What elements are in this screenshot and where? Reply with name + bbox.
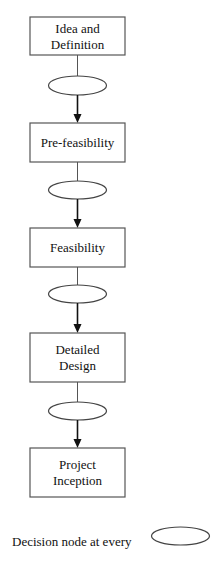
- stage-label: Feasibility: [50, 240, 105, 255]
- legend: Decision node at every: [12, 527, 210, 549]
- arrowhead-icon: [74, 114, 82, 123]
- decision-node-1: [49, 76, 107, 95]
- arrowhead-icon: [74, 324, 82, 333]
- stage-label-line-2: Inception: [53, 473, 103, 488]
- stage-pre-feasibility: Pre-feasibility: [30, 123, 125, 162]
- stage-label-line-1: Idea and: [55, 21, 100, 36]
- stage-label: Pre-feasibility: [41, 135, 115, 150]
- decision-node-2: [49, 181, 107, 199]
- arrowhead-icon: [74, 439, 82, 448]
- stage-label-line-2: Definition: [51, 37, 105, 52]
- stage-detailed-design: Detailed Design: [30, 333, 125, 382]
- stage-label-line-2: Design: [59, 358, 96, 373]
- arrowhead-icon: [74, 219, 82, 228]
- flowchart-diagram: Idea and Definition Pre-feasibility Feas…: [0, 0, 222, 571]
- stage-idea-and-definition: Idea and Definition: [30, 17, 125, 55]
- legend-ellipse-icon: [152, 527, 210, 545]
- decision-node-3: [49, 285, 107, 303]
- stage-project-inception: Project Inception: [30, 448, 125, 497]
- decision-node-4: [49, 402, 107, 420]
- stage-label-line-1: Project: [59, 457, 96, 472]
- legend-text: Decision node at every: [12, 534, 132, 549]
- stage-label-line-1: Detailed: [55, 342, 100, 357]
- stage-feasibility: Feasibility: [30, 228, 125, 267]
